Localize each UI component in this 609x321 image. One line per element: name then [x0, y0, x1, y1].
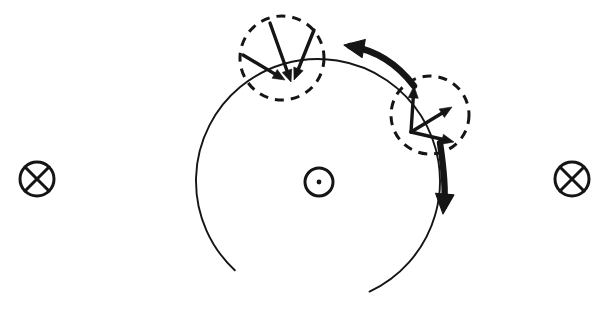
vector-upper-left-c-head — [294, 67, 303, 80]
field-into-page-left — [20, 162, 54, 196]
thick-arrow-leftward — [344, 39, 414, 86]
vectors-layer — [243, 23, 454, 144]
diagram-canvas — [0, 0, 609, 321]
field-into-page-right — [555, 162, 589, 196]
orbit-circle — [196, 59, 440, 292]
vector-upper-left-a-head — [272, 70, 285, 80]
vector-right-a-shaft — [411, 93, 414, 132]
physics-vector-diagram — [0, 0, 609, 321]
field-out-of-page-center — [305, 168, 333, 196]
vector-right-b-head — [439, 107, 452, 118]
field-symbols-layer — [20, 162, 589, 196]
vector-upper-left-c-shaft — [296, 30, 314, 74]
dashed-circle-right — [391, 76, 469, 154]
vector-group-upper-left — [243, 23, 314, 82]
field-dot-icon — [317, 180, 322, 185]
thick-arrow-leftward-head — [344, 39, 365, 57]
orbit-circle-group — [196, 59, 440, 292]
vector-group-right — [408, 86, 454, 144]
